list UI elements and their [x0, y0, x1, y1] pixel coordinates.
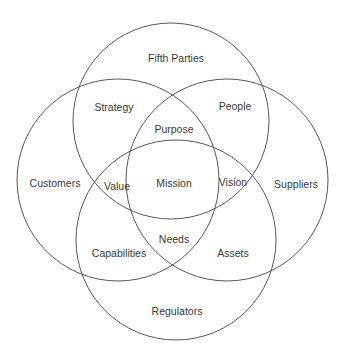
label-regulators: Regulators	[152, 305, 203, 317]
label-people: People	[219, 100, 252, 112]
label-purpose: Purpose	[154, 123, 193, 135]
label-vision: Vision	[219, 176, 247, 188]
label-mission: Mission	[156, 177, 192, 189]
label-suppliers: Suppliers	[274, 178, 318, 190]
label-strategy: Strategy	[94, 101, 133, 113]
label-assets: Assets	[217, 247, 249, 259]
label-needs: Needs	[159, 233, 189, 245]
label-value: Value	[104, 180, 130, 192]
label-fifth-parties: Fifth Parties	[148, 52, 204, 64]
label-capabilities: Capabilities	[92, 247, 146, 259]
label-customers: Customers	[30, 177, 81, 189]
